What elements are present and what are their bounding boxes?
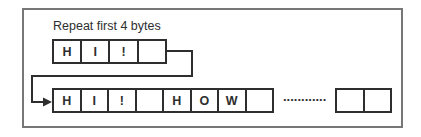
ellipsis-dots: ............ — [283, 90, 326, 103]
byte-cell — [135, 90, 163, 111]
byte-cell — [245, 90, 273, 111]
source-bytes-row: H I ! — [52, 39, 167, 64]
byte-cell: H — [162, 90, 190, 111]
byte-cell: ! — [107, 90, 135, 111]
byte-cell: I — [80, 90, 108, 111]
output-bytes-row: H I ! H O W — [52, 88, 274, 113]
repeat-label: Repeat first 4 bytes — [53, 19, 161, 33]
byte-cell — [363, 90, 391, 111]
diagram-canvas: Repeat first 4 bytes H I ! H I ! H O W .… — [0, 0, 421, 137]
byte-cell — [337, 90, 363, 111]
byte-cell — [137, 41, 165, 62]
tail-bytes-row — [335, 88, 392, 113]
byte-cell: I — [80, 41, 108, 62]
byte-cell: W — [217, 90, 245, 111]
byte-cell: H — [54, 90, 80, 111]
byte-cell: ! — [108, 41, 136, 62]
byte-cell: O — [190, 90, 218, 111]
byte-cell: H — [54, 41, 80, 62]
